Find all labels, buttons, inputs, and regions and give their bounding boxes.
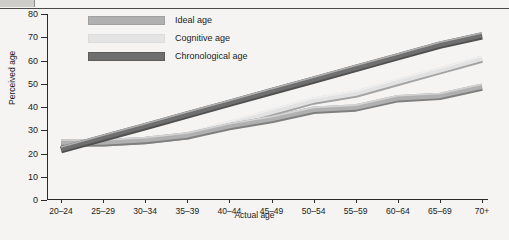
x-axis-tick-label: 40–44 [218,206,242,216]
x-axis-tick-label: 25–29 [91,206,115,216]
x-axis-tick-label: 35–39 [175,206,199,216]
figure: Ideal age Cognitive age Chronological ag… [0,0,509,240]
x-axis-tick-label: 55–59 [344,206,368,216]
x-axis-tick-label: 65–69 [428,206,452,216]
series-chronological-age [61,33,482,150]
y-axis-tick-label: 50 [28,79,38,89]
y-axis-tick-label: 30 [28,125,38,135]
x-axis-tick-label: 60–64 [386,206,410,216]
x-axis-tick-label: 20–24 [49,206,73,216]
y-axis-tick-label: 10 [28,172,38,182]
x-axis-tick-label: 70+ [475,206,489,216]
y-axis-tick-label: 0 [33,195,38,205]
x-axis-tick-label: 30–34 [133,206,157,216]
y-axis-tick-label: 60 [28,56,38,66]
corner-tab [0,0,35,7]
plot-area: 01020304050607080 20–2425–2930–3435–3940… [47,14,488,200]
y-axis-tick-label: 70 [28,32,38,42]
y-axis-tick [41,200,47,201]
title-divider [0,8,509,9]
y-axis-tick-label: 20 [28,149,38,159]
x-axis-tick-label: 50–54 [302,206,326,216]
y-axis-title: Perceived age [7,51,17,105]
x-axis-tick-label: 45–49 [260,206,284,216]
y-axis-tick-label: 40 [28,102,38,112]
y-axis-tick-label: 80 [28,9,38,19]
series-layer [47,14,488,200]
